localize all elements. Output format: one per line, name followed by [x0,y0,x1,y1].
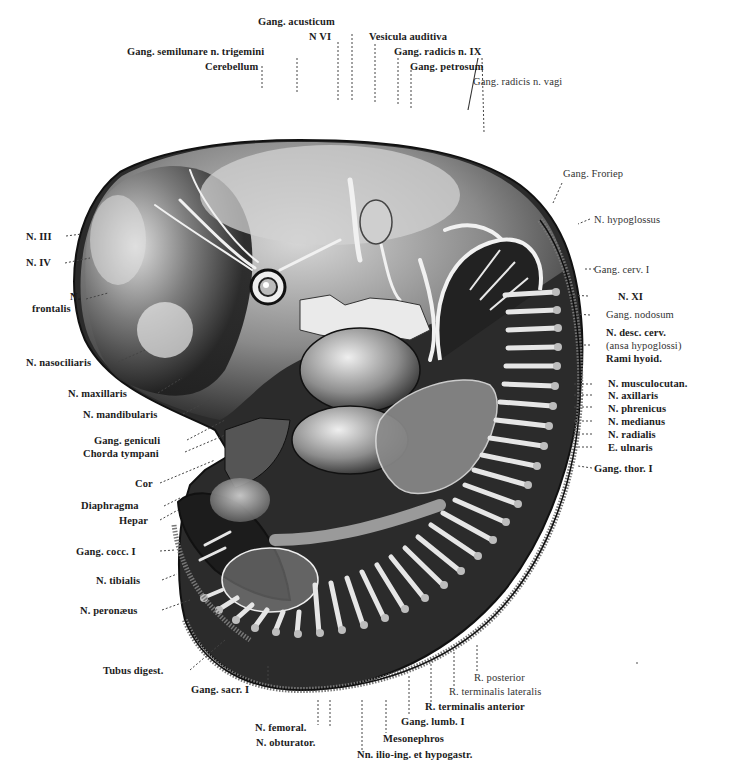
label-n-mandibularis: N. mandibularis [83,409,157,421]
label-nn-ilio-ing: Nn. ilio-ing. et hypogastr. [357,749,473,761]
label-n-radialis: N. radialis [608,429,656,441]
label-n-maxillaris: N. maxillaris [68,388,127,400]
label-r-terminalis-anterior: R. terminalis anterior [425,701,525,713]
vesicula-auditiva [360,200,392,244]
label-hepar: Hepar [119,515,148,527]
label-gang-lumb-i: Gang. lumb. I [401,716,465,728]
label-n-peronaeus: N. peronæus [80,605,138,617]
label-n-desc-cerv: N. desc. cerv. [606,327,666,339]
label-n-iv: N. IV [26,257,51,269]
limb-bud [222,548,318,612]
label-diaphragma: Diaphragma [81,500,139,512]
label-r-posterior: R. posterior [474,672,525,684]
label-n-phrenicus: N. phrenicus [608,403,666,415]
label-cerebellum: Cerebellum [205,61,258,73]
label-gang-radicis-vagi: Gang. radicis n. vagi [473,76,562,88]
label-ansa-hypoglossi: (ansa hypoglossi) [606,340,681,352]
eye [251,270,285,304]
label-cor: Cor [135,478,153,490]
label-n-axillaris: N. axillaris [608,390,658,402]
label-vesicula-auditiva: Vesicula auditiva [369,31,447,43]
label-e-ulnaris: E. ulnaris [608,442,653,454]
label-n-obturator: N. obturator. [256,737,316,749]
label-r-terminalis-lateralis: R. terminalis lateralis [449,686,541,698]
label-n-musculocutan: N. musculocutan. [608,378,687,390]
label-gang-sacr-i: Gang. sacr. I [191,684,249,696]
label-n-medianus: N. medianus [608,416,665,428]
label-n-femoral: N. femoral. [255,722,307,734]
label-chorda-tympani: Chorda tympani [83,448,159,460]
label-gang-cerv-i: Gang. cerv. I [594,264,649,276]
label-gang-cocc-i: Gang. cocc. I [76,546,136,558]
label-gang-petrosum: Gang. petrosum [410,61,484,73]
label-gang-radicis-ix: Gang. radicis n. IX [394,46,481,58]
label-tubus-digest: Tubus digest. [103,665,163,677]
label-n-hypoglossus: N. hypoglossus [594,214,660,226]
label-n-nasociliaris: N. nasociliaris [26,357,91,369]
label-gang-nodosum: Gang. nodosum [606,309,674,321]
label-gang-froriep: Gang. Froriep [563,168,623,180]
label-n-frontalis-2: frontalis [32,303,71,315]
stray-mark [636,662,638,664]
label-mesonephros: Mesonephros [383,733,444,745]
label-gang-acusticum: Gang. acusticum [258,16,335,28]
label-gang-geniculi: Gang. geniculi [94,435,160,447]
label-n-iii: N. III [26,231,52,243]
label-n-frontalis-1: N. [70,291,80,303]
label-gang-thor-i: Gang. thor. I [594,463,653,475]
label-n-xi: N. XI [618,291,643,303]
label-rami-hyoid: Rami hyoid. [606,353,662,365]
label-n-tibialis: N. tibialis [96,575,140,587]
label-gang-semilunare: Gang. semilunare n. trigemini [127,46,264,58]
hepar [210,478,270,522]
label-n-vi: N VI [309,31,331,43]
